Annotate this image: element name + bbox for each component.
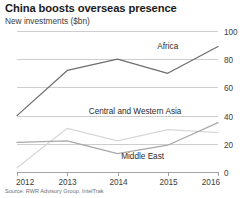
x-axis-tick-label: 2012 — [16, 178, 35, 187]
series-label-central-and-western-asia: Central and Western Asia — [89, 107, 182, 116]
series-line-middle-east — [17, 123, 218, 154]
line-chart-svg: AfricaCentral and Western AsiaMiddle Eas… — [0, 0, 250, 198]
x-axis-tick-label: 2016 — [202, 178, 221, 187]
x-axis-tick-labels: 20122013201420152016 — [16, 178, 220, 187]
series-line-africa — [17, 47, 218, 116]
y-axis-tick-label: 60 — [224, 84, 234, 93]
y-axis-tick-labels: 020406080100 — [224, 28, 238, 178]
series-label-middle-east: Middle East — [121, 152, 165, 161]
y-axis-tick-label: 40 — [224, 113, 234, 122]
plot-area: AfricaCentral and Western AsiaMiddle Eas… — [0, 0, 250, 198]
series-label-africa: Africa — [157, 42, 178, 51]
y-axis-tick-label: 100 — [224, 28, 238, 37]
series-labels-group: AfricaCentral and Western AsiaMiddle Eas… — [89, 42, 182, 161]
chart-card: China boosts overseas presence New inves… — [0, 0, 250, 198]
x-axis-tick-label: 2013 — [58, 178, 77, 187]
series-line-central-and-western-asia — [17, 128, 218, 167]
gridlines-group — [17, 32, 218, 173]
y-axis-tick-label: 0 — [224, 169, 229, 178]
chart-source-note: Source: RWR Advisory Group, IntelTrak — [5, 188, 104, 194]
y-axis-tick-label: 20 — [224, 141, 234, 150]
x-axis-tick-label: 2015 — [159, 178, 178, 187]
x-axis-tick-label: 2014 — [109, 178, 128, 187]
y-axis-tick-label: 80 — [224, 56, 234, 65]
